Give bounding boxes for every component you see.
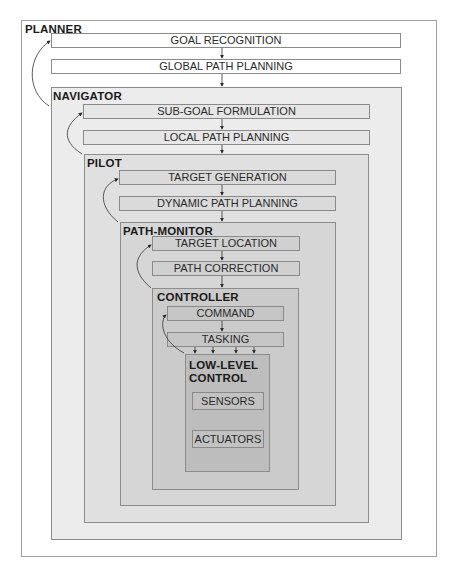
step-tasking: TASKING bbox=[167, 332, 284, 347]
step-sub-goal-formulation: SUB-GOAL FORMULATION bbox=[83, 104, 370, 119]
low-level-title-line2: CONTROL bbox=[189, 372, 247, 384]
step-target-generation: TARGET GENERATION bbox=[119, 170, 336, 185]
step-target-location: TARGET LOCATION bbox=[152, 236, 300, 251]
step-global-path-planning: GLOBAL PATH PLANNING bbox=[51, 59, 401, 74]
navigator-title: NAVIGATOR bbox=[53, 90, 122, 102]
low-level-title-line1: LOW-LEVEL bbox=[189, 359, 258, 371]
step-path-correction: PATH CORRECTION bbox=[152, 261, 300, 276]
controller-title: CONTROLLER bbox=[157, 291, 239, 303]
pilot-title: PILOT bbox=[87, 157, 122, 169]
step-dynamic-path-planning: DYNAMIC PATH PLANNING bbox=[119, 196, 336, 211]
step-command: COMMAND bbox=[167, 306, 284, 321]
step-sensors: SENSORS bbox=[192, 392, 264, 410]
step-local-path-planning: LOCAL PATH PLANNING bbox=[83, 130, 370, 145]
step-goal-recognition: GOAL RECOGNITION bbox=[51, 33, 401, 48]
step-actuators: ACTUATORS bbox=[192, 430, 264, 448]
